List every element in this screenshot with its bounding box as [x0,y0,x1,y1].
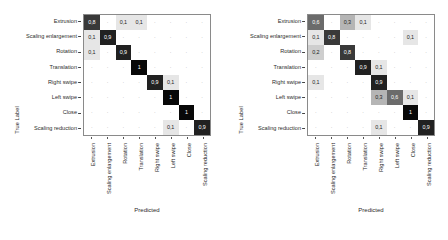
heatmap-cell-value: · [186,125,188,130]
heatmap-cell-value: · [91,95,93,100]
heatmap-cell: · [131,45,147,60]
heatmap-cell-value: 0,1 [120,20,127,25]
heatmap-cell: 0,1 [131,15,147,30]
heatmap-cell: · [194,15,210,30]
heatmap-cell-value: 0,1 [375,125,382,130]
heatmap-cell: · [179,75,195,90]
y-tick-left-0-text: Extrusion [54,19,77,25]
heatmap-cell-value: · [186,35,188,40]
x-tick-left-2-text: Rotation [123,143,129,164]
heatmap-cell: 0,1 [163,120,179,135]
heatmap-cell-value: · [425,95,427,100]
y-tickmark-icon [78,128,80,129]
heatmap-cell: 0,1 [308,30,324,45]
heatmap-cell: · [355,120,371,135]
x-tick-right-0: Extrusion [307,137,323,199]
heatmap-cell-value: · [201,95,203,100]
heatmap-cell: · [340,105,356,120]
heatmap-cell: · [116,75,132,90]
heatmap-cell: · [163,15,179,30]
heatmap-cell-value: · [201,50,203,55]
heatmap-cell-value: · [331,65,333,70]
heatmap-cell: 0,9 [418,120,434,135]
heatmap-cell-value: · [347,65,349,70]
heatmap-cell-value: · [331,95,333,100]
y-tickmark-icon [78,67,80,68]
heatmap-cell: 0,1 [163,75,179,90]
heatmap-cell-value: · [154,125,156,130]
heatmap-cell-value: 1 [169,95,172,100]
heatmap-cell: · [100,90,116,105]
heatmap-cell: · [418,60,434,75]
heatmap-cell: 1 [131,60,147,75]
heatmap-cell-value: 0,1 [407,35,414,40]
heatmap-cell: · [418,90,434,105]
heatmap-cell: 0,9 [116,45,132,60]
heatmap-cell-value: · [91,65,93,70]
heatmap-cell: 0,9 [355,60,371,75]
heatmap-cell: · [179,45,195,60]
heatmap-cell-value: · [410,20,412,25]
heatmap-cell: 0,6 [387,90,403,105]
heatmap-cell-value: 0,8 [88,20,95,25]
heatmap-cell: 0,1 [308,75,324,90]
heatmap-cell: 0,8 [324,30,340,45]
heatmap-cell-value: 0,3 [375,95,382,100]
x-tickmark-icon [203,137,204,139]
y-tick-labels-left: Extrusion Scaling enlargement Rotation T… [0,14,81,136]
heatmap-cell-value: 0,8 [344,50,351,55]
y-tick-right-1: Scaling enlargement [224,29,305,44]
heatmap-cell-value: · [138,125,140,130]
heatmap-cell: · [179,120,195,135]
heatmap-cell-value: · [123,125,125,130]
heatmap-cell-value: · [331,80,333,85]
heatmap-cell-value: · [170,50,172,55]
x-tick-right-7-text: Scaling reduction [427,143,433,186]
heatmap-cell-value: · [201,65,203,70]
heatmap-cell-value: · [378,20,380,25]
heatmap-cell: · [147,60,163,75]
heatmap-cell: · [163,60,179,75]
heatmap-cell: · [194,105,210,120]
heatmap-cell-value: 0,1 [375,65,382,70]
heatmap-cell-value: · [123,95,125,100]
heatmap-cell-value: · [138,80,140,85]
heatmap-cell: · [324,120,340,135]
heatmap-cell-value: · [91,110,93,115]
y-tick-left-4-text: Right swipe [48,80,77,86]
y-tickmark-icon [302,82,304,83]
heatmap-cell: · [308,120,324,135]
heatmap-cell: · [116,120,132,135]
heatmap-cell: · [100,105,116,120]
x-tickmark-icon [411,137,412,139]
heatmap-cell: · [324,15,340,30]
heatmap-cell-value: 0,9 [422,125,429,130]
x-tickmark-icon [379,137,380,139]
heatmap-cell-value: · [315,110,317,115]
heatmap-cell: · [194,90,210,105]
heatmap-cell: · [194,60,210,75]
heatmap-cell-value: 0,2 [312,50,319,55]
y-tickmark-icon [302,113,304,114]
x-tick-right-5-text: Left swipe [395,143,401,168]
y-tick-right-7: Scaling reduction [224,121,305,136]
y-tickmark-icon [78,36,80,37]
y-tick-left-1-text: Scaling enlargement [26,34,77,40]
x-tick-left-5-text: Left swipe [171,143,177,168]
heatmap-cell: 0,9 [147,75,163,90]
heatmap-cell-value: · [410,65,412,70]
heatmap-cell: · [403,120,419,135]
heatmap-cell-value: · [394,35,396,40]
x-tick-left-6-text: Close [187,143,193,157]
x-axis-label-right: Predicted [307,207,435,213]
y-tick-left-3: Translation [0,60,81,75]
heatmap-cell: · [387,120,403,135]
confusion-matrix-panel-right: True Label Extrusion Scaling enlargement… [224,0,448,240]
heatmap-cell-value: · [425,35,427,40]
y-tick-right-0: Extrusion [224,14,305,29]
heatmap-cell: · [371,30,387,45]
x-tickmark-icon [123,137,124,139]
heatmap-cell: · [371,105,387,120]
x-tick-left-5: Left swipe [163,137,179,199]
heatmap-cell-value: 0,1 [312,35,319,40]
